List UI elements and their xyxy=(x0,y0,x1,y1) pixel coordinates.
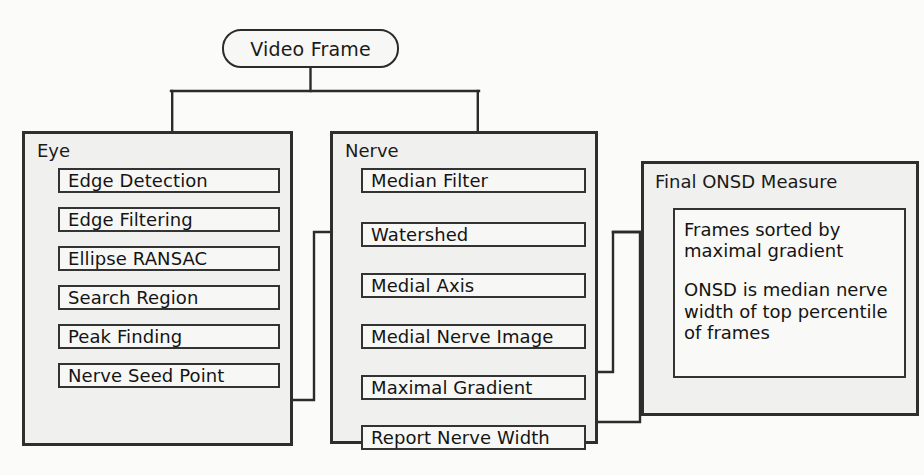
step-medial-axis[interactable]: Medial Axis xyxy=(361,273,586,298)
node-video-frame[interactable]: Video Frame xyxy=(222,29,399,68)
group-nerve-title: Nerve xyxy=(345,140,399,161)
step-search-region[interactable]: Search Region xyxy=(58,285,280,310)
step-peak-finding[interactable]: Peak Finding xyxy=(58,324,280,349)
step-nerve-seed-point[interactable]: Nerve Seed Point xyxy=(58,363,280,388)
node-video-frame-label: Video Frame xyxy=(250,38,371,60)
step-edge-detection[interactable]: Edge Detection xyxy=(58,168,280,193)
step-median-filter[interactable]: Median Filter xyxy=(361,168,586,193)
group-eye: Eye Edge Detection Edge Filtering Ellips… xyxy=(22,131,293,446)
step-medial-nerve-image[interactable]: Medial Nerve Image xyxy=(361,324,586,349)
group-final-title: Final ONSD Measure xyxy=(655,171,837,192)
final-onsd-paragraph-1: Frames sorted by maximal gradient xyxy=(684,219,898,261)
group-final-onsd-measure: Final ONSD Measure Frames sorted by maxi… xyxy=(641,161,919,416)
final-onsd-paragraph-2: ONSD is median nerve width of top percen… xyxy=(684,279,898,343)
group-nerve: Nerve Median Filter Watershed Medial Axi… xyxy=(330,131,598,444)
step-report-nerve-width[interactable]: Report Nerve Width xyxy=(361,425,586,450)
connector-reportwidth-to-final xyxy=(597,232,640,422)
step-maximal-gradient[interactable]: Maximal Gradient xyxy=(361,375,586,400)
step-edge-filtering[interactable]: Edge Filtering xyxy=(58,207,280,232)
step-ellipse-ransac[interactable]: Ellipse RANSAC xyxy=(58,246,280,271)
final-onsd-description-panel: Frames sorted by maximal gradient ONSD i… xyxy=(673,208,906,378)
flowchart-canvas: Video Frame Eye Edge Detection Edge Filt… xyxy=(0,0,924,475)
group-eye-title: Eye xyxy=(37,140,70,161)
step-watershed[interactable]: Watershed xyxy=(361,222,586,247)
